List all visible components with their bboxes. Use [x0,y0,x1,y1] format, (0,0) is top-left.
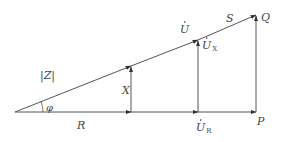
ur-dot-symbol: U [196,122,205,133]
label-x: X [122,85,130,96]
label-q: Q [261,12,270,23]
phi-angle-arc [41,102,43,112]
ux-dot-symbol: U [202,40,211,51]
label-phi: φ [46,103,53,113]
label-r: R [77,120,85,131]
label-ur: UR [196,122,212,135]
ur-subscript: R [206,127,211,135]
ux-subscript: X [212,45,217,53]
label-u: U [180,24,189,35]
label-ux: UX [202,40,217,53]
hypotenuse-z [15,66,131,112]
u-dot-symbol: U [180,24,189,35]
hypotenuse-u [131,40,198,66]
label-z: |Z| [40,70,55,81]
label-p: P [257,116,264,127]
label-s: S [226,13,234,24]
